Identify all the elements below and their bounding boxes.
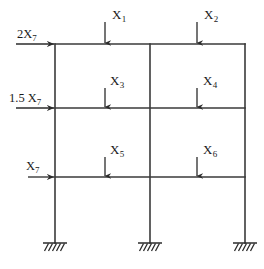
lateral-label-2x7: 2X7 xyxy=(17,28,37,41)
support-left-hatching xyxy=(45,244,65,252)
load-label-x1: X1 xyxy=(112,8,126,21)
load-label-x3: X3 xyxy=(110,74,124,87)
support-right-hatching xyxy=(235,244,255,252)
load-label-x4: X4 xyxy=(203,74,217,87)
support-left xyxy=(43,243,67,251)
lateral-label-1p5x7: 1.5 X7 xyxy=(9,92,41,105)
support-center xyxy=(138,243,162,251)
frame-drawing-canvas xyxy=(0,0,264,269)
lateral-load-arrows xyxy=(16,44,54,177)
structural-frame-figure: X1 X2 X3 X4 X5 X6 2X7 1.5 X7 X7 xyxy=(0,0,264,269)
lateral-label-x7: X7 xyxy=(26,160,40,173)
load-label-x2: X2 xyxy=(204,8,218,21)
load-label-x5: X5 xyxy=(110,143,124,156)
support-center-hatching xyxy=(140,244,160,252)
support-right xyxy=(233,243,257,251)
load-label-x6: X6 xyxy=(203,143,217,156)
